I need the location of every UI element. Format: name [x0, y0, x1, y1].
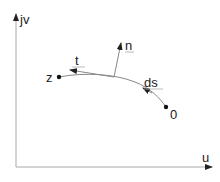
diagram-svg: jv u z 0 t n ds [0, 0, 220, 182]
vertical-axis-label: jv [19, 12, 30, 27]
normal-label: n [125, 38, 132, 53]
horizontal-axis-label: u [202, 150, 209, 165]
point-0-label: 0 [170, 107, 177, 122]
tangent-label: t [75, 53, 79, 68]
point-z-dot [57, 75, 61, 79]
tangent-vector [70, 70, 114, 77]
point-z-label: z [46, 70, 53, 85]
point-0-dot [164, 105, 168, 109]
arc-element-label: ds [144, 75, 158, 90]
diagram-canvas: jv u z 0 t n ds [0, 0, 220, 182]
normal-vector [114, 43, 121, 77]
axes: jv u [16, 12, 212, 167]
